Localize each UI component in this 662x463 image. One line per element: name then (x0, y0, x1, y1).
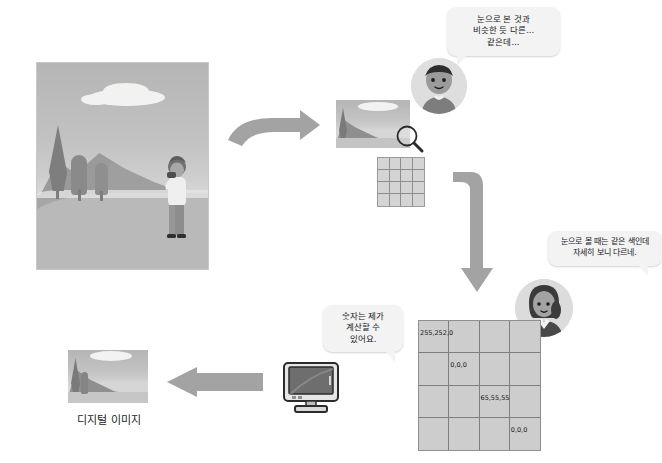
digital-image-output (68, 350, 148, 403)
grid-cell (413, 170, 425, 182)
bubble-tail (638, 265, 648, 276)
pixel-cell: 0,0,0 (449, 353, 479, 385)
magnifier-icon (394, 124, 426, 154)
digital-image-caption: 디지털 이미지 (58, 411, 160, 427)
bubble-line: 자세히 보니 다르네. (553, 248, 657, 259)
bubble-line: 같은데... (453, 37, 554, 48)
pixel-cell (449, 418, 479, 450)
tree-icon (81, 372, 88, 394)
pixel-cell (419, 386, 449, 418)
arrow-down-icon (447, 170, 495, 296)
pixel-cell (449, 386, 479, 418)
bubble-line: 숫자는 제가 (328, 311, 398, 322)
grid-cell (413, 194, 425, 206)
bubble-line: 있어요. (328, 334, 398, 345)
source-photo (36, 62, 209, 270)
pixel-cell: 0,0,0 (510, 418, 540, 450)
pixel-cell (480, 418, 510, 450)
arrow-left-icon (165, 367, 265, 397)
cloud-icon (81, 94, 111, 105)
grid-cell (401, 194, 413, 206)
man-avatar (411, 58, 467, 114)
bubble-line: 눈으로 볼 때는 같은 색인데 (553, 237, 657, 248)
woman-speech-bubble: 눈으로 볼 때는 같은 색인데 자세히 보니 다르네. (548, 231, 662, 266)
bubble-line: 눈으로 본 것과 (453, 14, 554, 25)
pixel-cell: 255,252,0 (419, 321, 449, 353)
arrow-right-icon (226, 110, 322, 150)
monitor-icon (283, 362, 339, 414)
pixel-cell (419, 418, 449, 450)
bubble-tail (385, 351, 395, 362)
grid-cell (378, 182, 390, 194)
bubble-line: 계산할 수 (328, 322, 398, 333)
grid-cell (378, 158, 390, 170)
grid-cell (390, 170, 402, 182)
pixel-value-label: 255,252,0 (420, 329, 453, 337)
thumbnail-pixel-grid (377, 157, 425, 207)
pixel-cell (510, 353, 540, 385)
tree-trunk (56, 183, 59, 199)
pixel-value-grid: 255,252,0 0,0,0 65,55,55 0,0,0 (418, 320, 541, 451)
pixel-cell (419, 353, 449, 385)
tree-trunk (78, 189, 81, 201)
grid-cell (401, 158, 413, 170)
pixel-value-label: 0,0,0 (511, 426, 528, 434)
grid-cell (378, 170, 390, 182)
photographer-figure (155, 155, 199, 245)
bubble-tail (457, 55, 467, 66)
cloud-icon (90, 351, 132, 361)
pixel-cell (480, 321, 510, 353)
tree-trunk (100, 191, 103, 201)
pixel-cell (449, 321, 479, 353)
grid-cell (413, 158, 425, 170)
pixel-value-label: 0,0,0 (450, 361, 467, 369)
pixel-cell (480, 353, 510, 385)
pixel-cell (510, 386, 540, 418)
man-speech-bubble: 눈으로 본 것과 비슷한 듯 다른... 같은데... (447, 7, 560, 56)
pixel-cell: 65,55,55 (480, 386, 510, 418)
computer-speech-bubble: 숫자는 제가 계산할 수 있어요. (323, 305, 403, 352)
bubble-line: 비슷한 듯 다른... (453, 25, 554, 36)
grid-cell (401, 182, 413, 194)
grid-cell (390, 194, 402, 206)
photo-ground (68, 392, 148, 403)
cloud-icon (358, 102, 398, 111)
grid-cell (390, 158, 402, 170)
grid-cell (413, 182, 425, 194)
pixel-cell (510, 321, 540, 353)
pixel-value-label: 65,55,55 (481, 394, 510, 402)
grid-cell (401, 170, 413, 182)
grid-cell (378, 194, 390, 206)
grid-cell (390, 182, 402, 194)
